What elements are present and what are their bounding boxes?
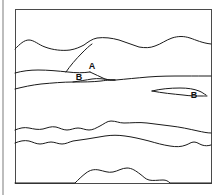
section-frame-border bbox=[16, 10, 212, 184]
annotation-label-a: A bbox=[89, 61, 96, 71]
annotation-label-b-right: B bbox=[191, 90, 198, 100]
annotation-label-b-left: B bbox=[76, 72, 83, 82]
geologic-cross-section-figure: A B B bbox=[0, 0, 223, 195]
figure-root: A B B bbox=[0, 0, 223, 195]
